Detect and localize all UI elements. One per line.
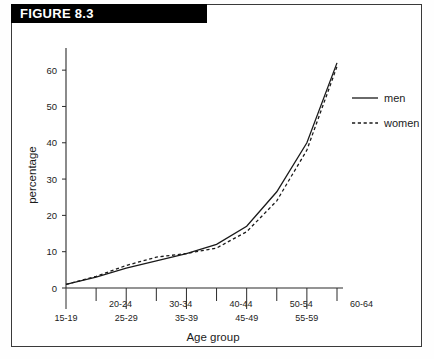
y-tick-label: 0 (52, 283, 57, 294)
legend-label-men: men (384, 92, 405, 104)
y-tick-label: 30 (46, 174, 57, 185)
x-tick-label: 50-54 (290, 299, 313, 309)
y-tick-label: 40 (46, 137, 57, 148)
figure-container: FIGURE 8.3 0102030405060 15-1920-2425-29… (0, 0, 434, 359)
y-axis-title: percentage (26, 146, 38, 204)
chart-axes (66, 48, 343, 288)
x-tick-label: 35-39 (175, 313, 198, 323)
series-line-women (66, 67, 337, 285)
y-tick-label: 10 (46, 246, 57, 257)
y-tick-label: 50 (46, 101, 57, 112)
x-axis-title: Age group (186, 331, 239, 343)
chart-plot-area: 0102030405060 15-1920-2425-2930-3435-394… (0, 0, 434, 359)
legend-label-women: women (383, 117, 419, 129)
x-tick-label: 40-44 (230, 299, 253, 309)
x-tick-label: 25-29 (115, 313, 138, 323)
y-axis-ticks: 0102030405060 (46, 65, 66, 294)
chart-series-group (66, 63, 337, 284)
y-tick-label: 60 (46, 65, 57, 76)
line-chart-svg: 0102030405060 15-1920-2425-2930-3435-394… (0, 0, 434, 359)
x-tick-label: 15-19 (54, 313, 77, 323)
x-tick-label: 30-34 (169, 299, 192, 309)
x-tick-label: 60-64 (350, 299, 373, 309)
y-tick-label: 20 (46, 210, 57, 221)
chart-legend: men women (352, 92, 419, 129)
x-axis-ticks: 15-1920-2425-2930-3435-3940-4445-4950-54… (54, 288, 373, 323)
x-tick-label: 55-59 (295, 313, 318, 323)
x-tick-label: 45-49 (235, 313, 258, 323)
x-tick-label: 20-24 (109, 299, 132, 309)
